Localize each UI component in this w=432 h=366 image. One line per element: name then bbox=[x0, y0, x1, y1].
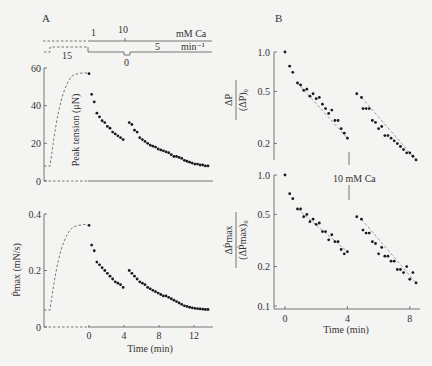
svg-text:0: 0 bbox=[36, 322, 41, 333]
chart-normalized-dpmax: 10 mM Ca 0.10.20.51.0048 ΔṖmax (ΔṖmax)₀ … bbox=[223, 170, 420, 337]
ca-value-1: 1 bbox=[91, 27, 96, 38]
svg-text:0.4: 0.4 bbox=[29, 209, 42, 220]
ca-units: mM Ca bbox=[176, 28, 207, 39]
panel-a-label: A bbox=[42, 12, 50, 24]
svg-text:20: 20 bbox=[31, 138, 41, 149]
svg-text:40: 40 bbox=[31, 100, 41, 111]
x-axis-label-b: Time (min) bbox=[323, 324, 368, 336]
ca-value-10: 10 bbox=[118, 24, 128, 35]
y-axis-label-peak-tension: Peak tension (μN) bbox=[70, 94, 82, 167]
svg-text:0.2: 0.2 bbox=[29, 265, 42, 276]
svg-text:60: 60 bbox=[31, 63, 41, 74]
rate-5: 5 bbox=[155, 41, 160, 52]
rate-0: 0 bbox=[124, 57, 129, 68]
svg-text:0.2: 0.2 bbox=[258, 138, 271, 149]
protocol-diagram: 1 10 mM Ca 15 5 0 min⁻¹ bbox=[43, 24, 212, 68]
svg-text:ΔP: ΔP bbox=[223, 94, 234, 106]
svg-text:4: 4 bbox=[345, 313, 350, 324]
svg-text:(ΔṖmax)₀: (ΔṖmax)₀ bbox=[237, 220, 249, 260]
svg-text:4: 4 bbox=[122, 330, 127, 341]
y-axis-label-dpmax: ΔṖmax (ΔṖmax)₀ bbox=[223, 212, 249, 268]
chart-normalized-dp: 0.20.51.0 ΔP (ΔP)₀ bbox=[223, 47, 417, 166]
chart-pmax: 00.20.404812 Ṗmax (mN/s) Time (min) bbox=[11, 209, 213, 356]
rate-15: 15 bbox=[62, 50, 72, 61]
y-axis-label-dp: ΔP (ΔP)₀ bbox=[223, 80, 249, 120]
svg-text:0: 0 bbox=[36, 176, 41, 187]
svg-text:1.0: 1.0 bbox=[258, 47, 271, 58]
svg-text:8: 8 bbox=[407, 313, 412, 324]
svg-text:0.5: 0.5 bbox=[258, 86, 271, 97]
svg-text:0.2: 0.2 bbox=[258, 261, 271, 272]
svg-text:0: 0 bbox=[87, 330, 92, 341]
svg-text:8: 8 bbox=[157, 330, 162, 341]
chart-peak-tension: 0204060 Peak tension (μN) bbox=[31, 63, 213, 187]
svg-text:ΔṖmax: ΔṖmax bbox=[223, 225, 234, 254]
rate-units: min⁻¹ bbox=[181, 41, 205, 52]
x-axis-label-a: Time (min) bbox=[127, 343, 172, 355]
svg-text:0.1: 0.1 bbox=[258, 301, 271, 312]
svg-text:0.5: 0.5 bbox=[258, 209, 271, 220]
panel-b-label: B bbox=[275, 12, 282, 24]
svg-text:(ΔP)₀: (ΔP)₀ bbox=[237, 88, 249, 111]
svg-text:12: 12 bbox=[189, 330, 199, 341]
figure-canvas: A B 1 10 mM Ca 15 5 0 min⁻¹ 0204060 Peak… bbox=[0, 0, 432, 366]
svg-text:1.0: 1.0 bbox=[258, 170, 271, 181]
annotation-10mM-ca: 10 mM Ca bbox=[333, 173, 376, 184]
y-axis-label-pmax: Ṗmax (mN/s) bbox=[11, 243, 23, 297]
svg-text:0: 0 bbox=[283, 313, 288, 324]
